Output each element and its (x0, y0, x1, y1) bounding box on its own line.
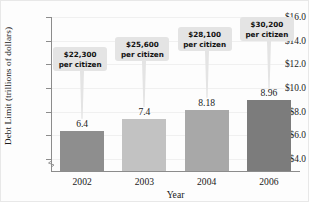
callout-box: $28,100per citizen (178, 27, 232, 51)
bar-value-label: 8.18 (177, 97, 237, 108)
bar[interactable] (247, 100, 291, 171)
callout-box: $22,300per citizen (53, 47, 107, 71)
bar[interactable] (60, 131, 104, 171)
callout-amount: $28,100 (183, 30, 227, 40)
y-tick-mark (46, 41, 51, 42)
y-tick-mark (46, 159, 51, 160)
callout-stem (139, 61, 149, 107)
callout-unit: per citizen (183, 40, 227, 50)
y-axis-line (51, 17, 52, 172)
axis-break-icon (47, 156, 56, 168)
callout-amount: $30,200 (245, 20, 289, 30)
callout-unit: per citizen (245, 30, 289, 40)
callout-unit: per citizen (120, 50, 164, 60)
x-tick-label: 2003 (114, 176, 174, 187)
y-axis-title-text: Debt Limit (trillions of dollars) (3, 27, 13, 145)
bar[interactable] (122, 119, 166, 171)
x-axis-title: Year (51, 189, 300, 200)
callout-amount: $25,600 (120, 40, 164, 50)
bar-value-label: 6.4 (52, 118, 112, 129)
callout-stem (77, 71, 87, 119)
callout-box: $30,200per citizen (240, 17, 294, 41)
y-tick-mark (46, 88, 51, 89)
bar-value-label: 7.4 (114, 106, 174, 117)
bar[interactable] (185, 110, 229, 171)
x-tick-label: 2002 (52, 176, 112, 187)
bar-chart-figure: Debt Limit (trillions of dollars) $16.0$… (0, 0, 309, 202)
callout-box: $25,600per citizen (115, 37, 169, 61)
bar-value-label: 8.96 (239, 87, 299, 98)
callout-amount: $22,300 (58, 50, 102, 60)
y-tick-mark (46, 135, 51, 136)
callout-stem (264, 41, 274, 88)
y-tick-mark (46, 17, 51, 18)
y-tick-mark (46, 64, 51, 65)
x-tick-label: 2004 (177, 176, 237, 187)
x-tick-label: 2006 (239, 176, 299, 187)
y-axis-title: Debt Limit (trillions of dollars) (1, 1, 15, 171)
callout-stem (202, 51, 212, 98)
x-axis-line (51, 171, 300, 172)
callout-unit: per citizen (58, 60, 102, 70)
y-tick-mark (46, 112, 51, 113)
